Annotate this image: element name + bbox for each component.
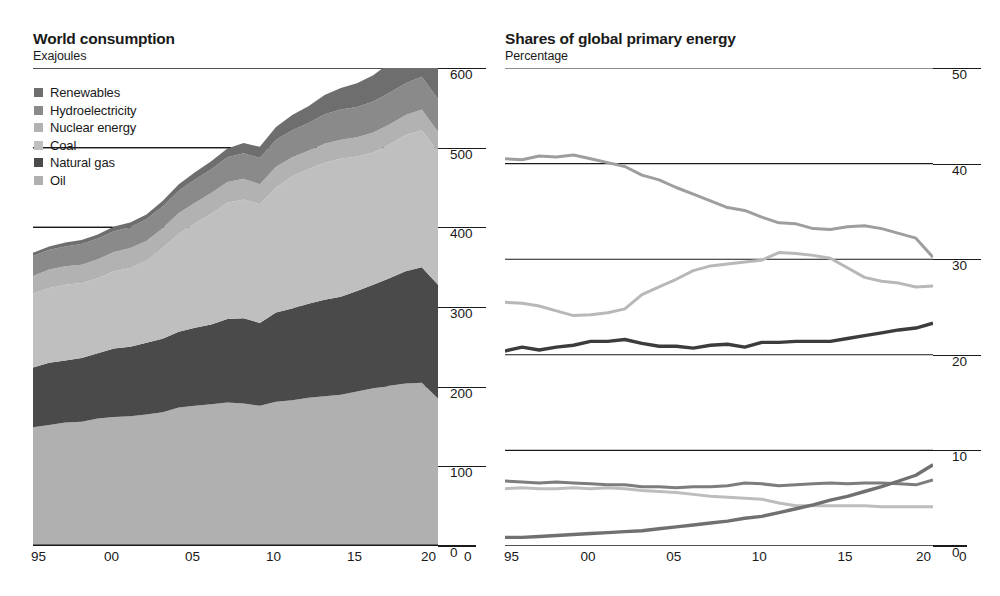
y-tick-label: 30 — [952, 258, 967, 273]
y-tick-rule — [933, 259, 981, 260]
y-tick-label: 600 — [450, 67, 473, 82]
x-tick-label: 00 — [104, 549, 119, 564]
y-tick-label: 200 — [450, 386, 473, 401]
panel-world-consumption: World consumption Exajoules RenewablesHy… — [0, 0, 500, 596]
y-tick-rule — [933, 68, 981, 69]
y-tick-rule — [438, 68, 486, 69]
y-tick-label: 400 — [450, 226, 473, 241]
y-tick-rule — [933, 355, 981, 356]
x-tick-label: 15 — [837, 549, 852, 564]
x-tick-label: 95 — [504, 549, 519, 564]
x-tick-label: 05 — [666, 549, 681, 564]
x-tick-label: 20 — [916, 549, 931, 564]
y-tick-label: 20 — [952, 354, 967, 369]
y-tick-rule — [438, 387, 486, 388]
y-tick-rule — [438, 466, 486, 467]
y-tick-rule — [438, 307, 486, 308]
y-tick-rule — [438, 148, 486, 149]
y-tick-rule — [438, 227, 486, 228]
y-tick-label: 50 — [952, 67, 967, 82]
y-tick-label: 40 — [952, 163, 967, 178]
x-tick-label: 15 — [347, 549, 362, 564]
x-tick-label: 95 — [31, 549, 46, 564]
y-tick-label: 300 — [450, 306, 473, 321]
y-axis-right: 01020304050 — [500, 0, 1000, 596]
y-tick-label: 500 — [450, 147, 473, 162]
y-axis-left: 0100200300400500600 — [0, 0, 500, 596]
x-tick-label: 05 — [185, 549, 200, 564]
y-tick-label: 10 — [952, 449, 967, 464]
y-tick-label-zero: 0 — [464, 549, 472, 564]
axis-baseline-extension — [438, 545, 476, 547]
x-axis-right: 9500051015200 — [500, 549, 1000, 571]
panel-shares-of-global-primary-energy: Shares of global primary energy Percenta… — [500, 0, 1000, 596]
y-tick-label: 100 — [450, 465, 473, 480]
x-axis-left: 9500051015200 — [0, 549, 500, 571]
x-tick-label: 10 — [752, 549, 767, 564]
x-tick-label: 10 — [266, 549, 281, 564]
y-tick-label-zero: 0 — [959, 549, 967, 564]
y-tick-rule — [933, 164, 981, 165]
chart-page: World consumption Exajoules RenewablesHy… — [0, 0, 1000, 596]
x-tick-label: 20 — [421, 549, 436, 564]
axis-baseline-extension — [933, 545, 967, 547]
x-tick-label: 00 — [581, 549, 596, 564]
y-tick-rule — [933, 450, 981, 451]
